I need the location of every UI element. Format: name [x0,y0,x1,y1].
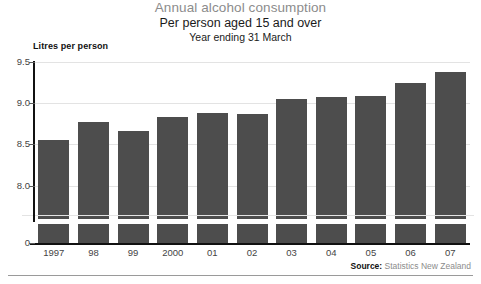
axis-break-gridline [22,215,474,216]
x-label-02: 02 [232,247,272,258]
source-note: Source: Statistics New Zealand [351,261,471,271]
source-text: Statistics New Zealand [382,261,471,271]
y-label-0: 0 [4,237,30,248]
x-label-1997: 1997 [34,247,74,258]
y-axis-unit-label: Litres per person [33,41,108,51]
x-label-2000: 2000 [153,247,193,258]
x-label-07: 07 [430,247,470,258]
y-tick-8-0 [29,186,35,187]
y-tick-0 [29,243,35,244]
x-label-05: 05 [351,247,391,258]
y-tick-9-5 [29,62,35,63]
x-axis-line [30,243,470,245]
y-axis-labels: 9.59.08.58.00 [0,0,30,284]
source-prefix: Source: [351,261,383,271]
x-label-06: 06 [391,247,431,258]
y-axis-line [33,61,35,222]
y-tick-9-0 [29,103,35,104]
bar-1997 [38,140,69,243]
chart-container: Annual alcohol consumption Per person ag… [0,0,481,284]
axis-break-band [22,219,474,224]
y-label-8-0: 8.0 [4,180,30,191]
y-label-8-5: 8.5 [4,138,30,149]
bar-07 [435,72,466,243]
y-label-9-0: 9.0 [4,97,30,108]
x-label-04: 04 [311,247,351,258]
y-label-9-5: 9.5 [4,56,30,67]
bar-98 [78,122,109,243]
chart-main-title: Annual alcohol consumption [0,0,481,16]
chart-title-block: Annual alcohol consumption Per person ag… [0,0,481,44]
x-label-98: 98 [73,247,113,258]
bar-99 [118,131,149,243]
bar-2000 [157,117,188,243]
x-label-01: 01 [192,247,232,258]
chart-subtitle: Per person aged 15 and over [0,16,481,31]
y-tick-8-5 [29,144,35,145]
bottom-divider [8,275,473,276]
x-label-99: 99 [113,247,153,258]
x-label-03: 03 [272,247,312,258]
